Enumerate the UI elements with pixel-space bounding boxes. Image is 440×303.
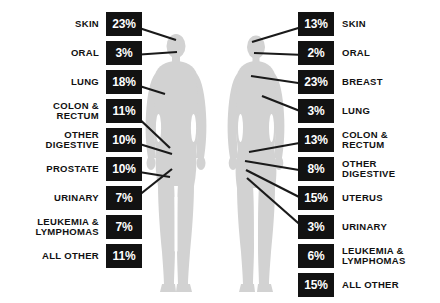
row-label: ALL OTHER [42, 251, 99, 262]
table-row[interactable]: 15% UTERUS [298, 186, 383, 210]
table-row[interactable]: URINARY 7% [54, 186, 142, 210]
percentage-badge[interactable]: 6% [298, 244, 334, 268]
table-row[interactable]: 6% LEUKEMIA & LYMPHOMAS [298, 244, 406, 268]
percentage-badge[interactable]: 7% [106, 215, 142, 239]
table-row[interactable]: 15% ALL OTHER [298, 273, 399, 297]
row-label: LEUKEMIA & LYMPHOMAS [35, 217, 99, 238]
percentage-value: 3% [308, 105, 325, 117]
table-row[interactable]: 23% BREAST [298, 70, 383, 94]
percentage-value: 8% [308, 163, 325, 175]
table-row[interactable]: 2% ORAL [298, 41, 370, 65]
row-label: OTHER DIGESTIVE [46, 130, 99, 151]
row-label: SKIN [342, 19, 366, 30]
table-row[interactable]: ALL OTHER 11% [42, 244, 142, 268]
row-label: BREAST [342, 77, 383, 88]
row-label: ORAL [342, 48, 370, 59]
percentage-value: 15% [304, 279, 327, 291]
row-label: PROSTATE [46, 164, 99, 175]
percentage-badge[interactable]: 3% [298, 99, 334, 123]
row-label: SKIN [75, 19, 99, 30]
percentage-badge[interactable]: 2% [298, 41, 334, 65]
row-label: LUNG [342, 106, 370, 117]
percentage-value: 11% [113, 250, 136, 262]
percentage-badge[interactable]: 23% [106, 12, 142, 36]
percentage-badge[interactable]: 11% [106, 99, 142, 123]
female-statistics-column: 13% SKIN 2% ORAL 23% BREAST 3% LUNG 13% … [290, 0, 440, 303]
percentage-badge[interactable]: 13% [298, 128, 334, 152]
percentage-value: 6% [308, 250, 325, 262]
percentage-value: 23% [112, 18, 135, 30]
percentage-value: 7% [116, 192, 133, 204]
table-row[interactable]: 3% URINARY [298, 215, 387, 239]
percentage-badge[interactable]: 23% [298, 70, 334, 94]
row-label: UTERUS [342, 193, 383, 204]
percentage-badge[interactable]: 13% [298, 12, 334, 36]
table-row[interactable]: 8% OTHER DIGESTIVE [298, 157, 395, 181]
percentage-value: 15% [304, 192, 327, 204]
table-row[interactable]: 13% SKIN [298, 12, 366, 36]
row-label: ORAL [71, 48, 99, 59]
percentage-value: 7% [116, 221, 133, 233]
table-row[interactable]: LUNG 18% [71, 70, 142, 94]
percentage-value: 3% [308, 221, 325, 233]
table-row[interactable]: SKIN 23% [75, 12, 142, 36]
table-row[interactable]: ORAL 3% [71, 41, 142, 65]
percentage-value: 13% [304, 134, 327, 146]
table-row[interactable]: 13% COLON & RECTUM [298, 128, 388, 152]
percentage-value: 10% [112, 134, 135, 146]
row-label: COLON & RECTUM [342, 130, 388, 151]
percentage-badge[interactable]: 10% [106, 157, 142, 181]
table-row[interactable]: 3% LUNG [298, 99, 370, 123]
percentage-badge[interactable]: 11% [106, 244, 142, 268]
percentage-badge[interactable]: 10% [106, 128, 142, 152]
percentage-value: 11% [113, 105, 136, 117]
percentage-badge[interactable]: 3% [106, 41, 142, 65]
percentage-badge[interactable]: 8% [298, 157, 334, 181]
percentage-value: 18% [112, 76, 135, 88]
table-row[interactable]: COLON & RECTUM 11% [53, 99, 142, 123]
row-label: URINARY [342, 222, 387, 233]
percentage-badge[interactable]: 15% [298, 186, 334, 210]
infographic-canvas: SKIN 23% ORAL 3% LUNG 18% COLON & RECTUM… [0, 0, 440, 303]
row-label: LUNG [71, 77, 99, 88]
row-label: URINARY [54, 193, 99, 204]
male-statistics-column: SKIN 23% ORAL 3% LUNG 18% COLON & RECTUM… [0, 0, 150, 303]
percentage-value: 3% [116, 47, 133, 59]
row-label: OTHER DIGESTIVE [342, 159, 395, 180]
percentage-badge[interactable]: 18% [106, 70, 142, 94]
table-row[interactable]: OTHER DIGESTIVE 10% [46, 128, 142, 152]
percentage-badge[interactable]: 7% [106, 186, 142, 210]
row-label: ALL OTHER [342, 280, 399, 291]
percentage-value: 13% [304, 18, 327, 30]
row-label: COLON & RECTUM [53, 101, 99, 122]
percentage-value: 10% [112, 163, 135, 175]
table-row[interactable]: LEUKEMIA & LYMPHOMAS 7% [35, 215, 142, 239]
percentage-badge[interactable]: 3% [298, 215, 334, 239]
percentage-value: 23% [304, 76, 327, 88]
percentage-value: 2% [308, 47, 325, 59]
row-label: LEUKEMIA & LYMPHOMAS [342, 246, 406, 267]
percentage-badge[interactable]: 15% [298, 273, 334, 297]
table-row[interactable]: PROSTATE 10% [46, 157, 142, 181]
